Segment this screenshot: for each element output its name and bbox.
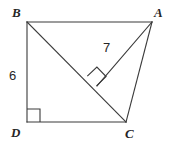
figure-canvas	[0, 0, 180, 148]
vertex-label-A: A	[154, 6, 163, 19]
right-angle-marker-F	[87, 67, 106, 86]
vertex-label-C: C	[125, 127, 134, 140]
length-label-AF: 7	[103, 41, 110, 54]
segment-BC	[27, 22, 126, 122]
vertex-label-D: D	[11, 126, 20, 139]
length-label-BD: 6	[9, 69, 16, 82]
geometry-figure: B A D C 6 7	[0, 0, 180, 148]
right-angle-marker-D	[27, 109, 40, 122]
vertex-label-B: B	[12, 6, 21, 19]
